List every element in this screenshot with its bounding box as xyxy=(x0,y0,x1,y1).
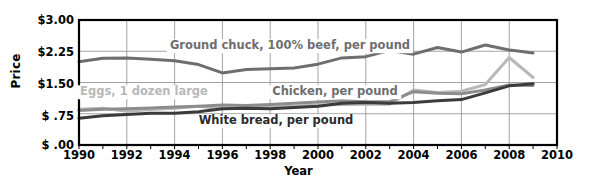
series-lines xyxy=(79,45,533,118)
series-annotation-chicken: Chicken, per pound xyxy=(269,85,401,99)
series-annotation-white-bread: White bread, per pound xyxy=(196,114,357,128)
series-annotation-ground-chuck: Ground chuck, 100% beef, per pound xyxy=(167,39,413,53)
series-annotation-eggs: Eggs, 1 dozen large xyxy=(77,85,211,99)
x-tick-label: 2010 xyxy=(527,148,587,162)
price-line-chart: Price $3.00 $2.25 $1.50 $ .75 $ .00 Grou… xyxy=(0,0,597,181)
x-axis-title: Year xyxy=(0,164,597,178)
